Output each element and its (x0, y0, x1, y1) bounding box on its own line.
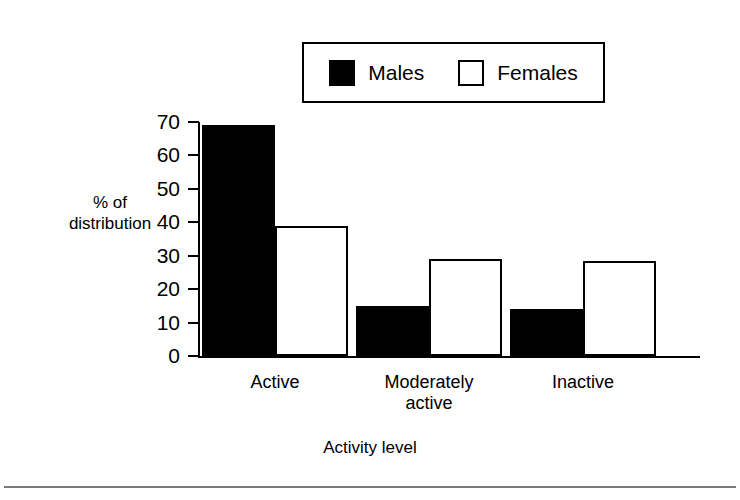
bar-males-active (202, 125, 275, 356)
plot-area (198, 122, 660, 356)
y-axis-tick-label: 30 (122, 245, 180, 266)
bar-chart-figure: Males Females % of distribution 01020304… (0, 0, 740, 500)
x-axis-label: Activity level (0, 438, 740, 458)
bottom-divider (4, 486, 736, 488)
bar-females-inactive (583, 261, 656, 356)
x-axis-category-label: Inactive (493, 372, 673, 393)
y-axis-tick-label: 20 (122, 278, 180, 299)
legend-swatch-females-icon (458, 60, 484, 86)
x-axis-line (198, 356, 700, 358)
x-axis-category-label-line: active (339, 393, 519, 414)
x-axis-category-label-line: Inactive (493, 372, 673, 393)
legend-swatch-males-icon (329, 60, 355, 86)
y-axis-tick-label: 70 (122, 111, 180, 132)
y-axis-tick-label: 60 (122, 144, 180, 165)
bar-females-moderately-active (429, 259, 502, 356)
x-axis-category-label: Active (185, 372, 365, 393)
legend-entry-females: Females (458, 60, 578, 86)
y-axis-tick-label: 10 (122, 312, 180, 333)
legend-label-males: Males (368, 62, 424, 83)
y-axis-tick-label: 40 (122, 211, 180, 232)
bar-males-moderately-active (356, 306, 429, 356)
x-axis-category-label-line: Active (185, 372, 365, 393)
chart-legend: Males Females (302, 42, 605, 103)
x-axis-category-label: Moderatelyactive (339, 372, 519, 414)
bar-males-inactive (510, 309, 583, 356)
bar-females-active (275, 226, 348, 356)
legend-entry-males: Males (329, 60, 424, 86)
x-axis-category-label-line: Moderately (339, 372, 519, 393)
legend-label-females: Females (497, 62, 578, 83)
y-axis-tick-label: 0 (122, 345, 180, 366)
y-axis-tick-label: 50 (122, 178, 180, 199)
